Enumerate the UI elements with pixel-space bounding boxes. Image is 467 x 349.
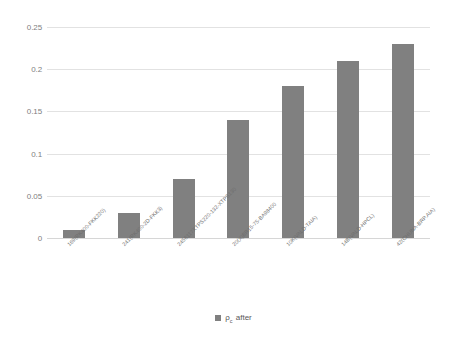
y-tick-label: 0.1 <box>31 149 42 158</box>
legend-swatch-rho-c-after <box>215 315 221 321</box>
y-tick-label: 0.05 <box>27 191 42 200</box>
bar-chart: 00.050.10.150.20.25 169(RK400-FKK220)241… <box>0 0 467 349</box>
bar[interactable] <box>227 120 249 238</box>
bar-slot <box>321 27 376 238</box>
y-tick-label: 0 <box>38 234 42 243</box>
plot-area: 00.050.10.150.20.25 <box>47 27 430 238</box>
y-tick-label: 0.15 <box>27 107 42 116</box>
bar-slot <box>375 27 430 238</box>
bar[interactable] <box>392 44 414 238</box>
chart-legend: ρc after <box>0 313 467 324</box>
legend-label-rho-c-after: ρc after <box>225 313 252 324</box>
bar-slot <box>156 27 211 238</box>
y-tick-label: 0.25 <box>27 23 42 32</box>
y-tick-label: 0.2 <box>31 65 42 74</box>
bar-slot <box>47 27 102 238</box>
bar[interactable] <box>282 86 304 238</box>
bars-layer <box>47 27 430 238</box>
bar[interactable] <box>337 61 359 238</box>
bar-slot <box>102 27 157 238</box>
